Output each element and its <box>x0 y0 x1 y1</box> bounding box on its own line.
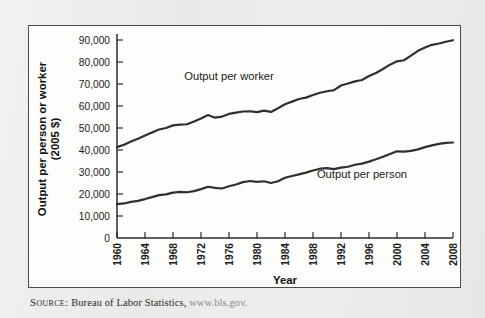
figure-frame: 010,00020,00030,00040,00050,00060,00070,… <box>28 25 461 288</box>
x-axis-tick-label: 1964 <box>140 243 151 266</box>
data-series-line <box>117 40 453 147</box>
x-axis-tick-label: 1996 <box>364 243 375 266</box>
y-axis-tick-label: 80,000 <box>79 57 110 68</box>
y-axis-title-line1: Output per person or worker <box>36 61 48 216</box>
source-note: Source: Bureau of Labor Statistics, www.… <box>30 296 248 308</box>
x-axis-tick-label: 1968 <box>168 243 179 266</box>
y-axis-tick-label: 30,000 <box>79 167 110 178</box>
x-axis-tick-label: 1972 <box>196 243 207 266</box>
y-axis-tick-label: 10,000 <box>79 211 110 222</box>
source-label: Source: <box>30 296 68 308</box>
source-text: Bureau of Labor Statistics, <box>71 297 186 308</box>
x-axis-tick-label: 1984 <box>280 243 291 266</box>
x-axis-tick-label: 1988 <box>308 243 319 266</box>
x-axis-tick-label: 2008 <box>448 243 459 266</box>
y-axis-tick-label: 40,000 <box>79 145 110 156</box>
y-axis-tick-label: 20,000 <box>79 189 110 200</box>
y-axis-tick-label: 50,000 <box>79 123 110 134</box>
line-chart: 010,00020,00030,00040,00050,00060,00070,… <box>29 26 460 287</box>
y-axis-tick-label: 70,000 <box>79 79 110 90</box>
series-annotation-label: Output per person <box>317 168 407 180</box>
x-axis-tick-label: 1960 <box>112 243 123 266</box>
source-url: www.bls.gov. <box>189 297 247 308</box>
series-annotation-label: Output per worker <box>184 70 274 82</box>
x-axis-title: Year <box>273 274 298 286</box>
y-axis-title-line2: (2005 $) <box>49 118 61 161</box>
y-axis-tick-label: 0 <box>104 233 110 244</box>
x-axis-tick-label: 2000 <box>392 243 403 266</box>
x-axis-tick-label: 1980 <box>252 243 263 266</box>
y-axis-tick-label: 90,000 <box>79 35 110 46</box>
x-axis-tick-label: 1976 <box>224 243 235 266</box>
y-axis-tick-label: 60,000 <box>79 101 110 112</box>
x-axis-tick-label: 2004 <box>420 243 431 266</box>
x-axis-tick-label: 1992 <box>336 243 347 266</box>
